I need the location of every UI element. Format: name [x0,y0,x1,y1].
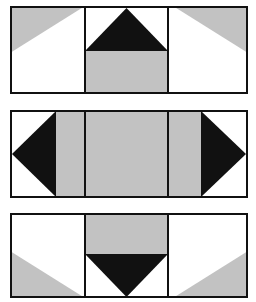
panel-middle-svg [10,110,248,198]
bottom-center-gray-band [85,213,168,254]
top-center-gray-band [85,51,168,94]
panel-bottom-block [10,213,248,298]
panel-top-svg [10,6,248,94]
middle-center-solid-gray [85,110,168,198]
diagram-canvas [0,0,256,302]
middle-gray-band-left [56,110,85,198]
panel-middle-block [10,110,248,198]
middle-gray-band-right [168,110,201,198]
panel-top-block [10,6,248,94]
panel-bottom-svg [10,213,248,298]
